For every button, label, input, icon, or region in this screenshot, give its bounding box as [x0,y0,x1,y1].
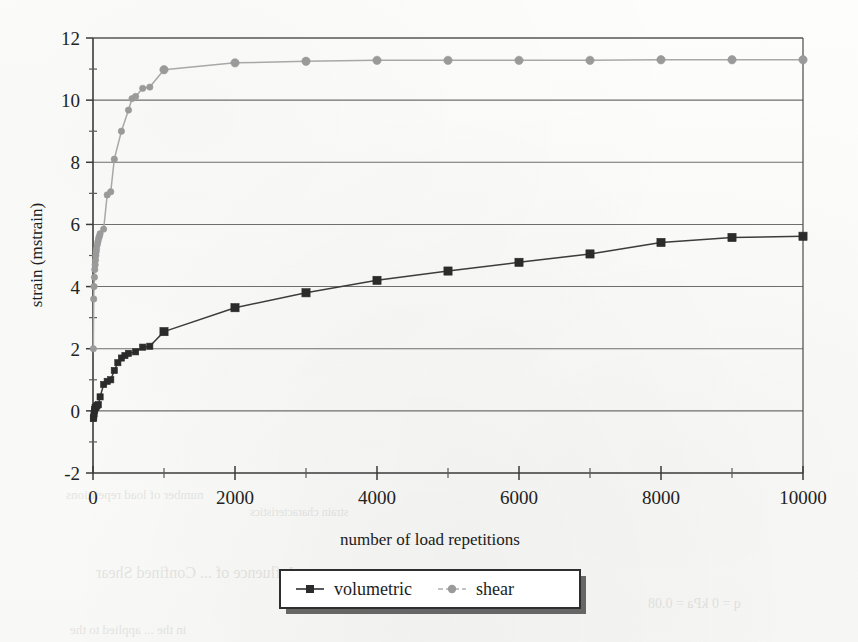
marker-volumetric [140,344,146,350]
y-axis-tick-labels: -2024681012 [61,28,81,484]
marker-volumetric [108,377,114,383]
legend-marker-shear [448,585,456,593]
gridlines [93,38,803,411]
legend-label-shear: shear [476,579,514,599]
marker-shear [91,274,97,280]
marker-shear [108,189,114,195]
x-axis-tick-labels: 0200040006000800010000 [88,487,827,508]
y-tick-label: 4 [71,277,81,298]
y-axis-title: strain (mstrain) [27,203,46,307]
legend-marker-volumetric [306,585,314,593]
marker-volumetric [302,289,310,297]
marker-volumetric [231,304,239,312]
x-tick-label: 6000 [500,487,538,508]
strain-vs-repetitions-chart: -2024681012 0200040006000800010000 numbe… [0,0,858,642]
marker-volumetric [133,349,139,355]
marker-volumetric [97,394,103,400]
marker-shear [515,56,523,64]
marker-shear [100,226,106,232]
marker-shear [799,56,807,64]
axis-spines [93,38,803,473]
y-tick-label: 0 [71,401,81,422]
series-volumetric [90,232,807,422]
marker-volumetric [160,328,168,336]
marker-shear [91,296,97,302]
series-line-shear [93,60,803,349]
marker-shear [160,65,168,73]
marker-shear [373,56,381,64]
y-tick-label: 2 [71,339,81,360]
chart-figure: -2024681012 0200040006000800010000 numbe… [0,0,858,642]
marker-volumetric [111,367,117,373]
marker-shear [91,283,97,289]
x-tick-label: 2000 [216,487,254,508]
marker-volumetric [728,233,736,241]
y-tick-label: 12 [61,28,80,49]
marker-shear [118,128,124,134]
marker-shear [728,56,736,64]
marker-volumetric [125,350,131,356]
marker-shear [90,346,96,352]
marker-volumetric [444,267,452,275]
y-tick-label: 6 [71,214,81,235]
legend-label-volumetric: volumetric [334,579,412,599]
marker-shear [231,59,239,67]
marker-volumetric [586,250,594,258]
y-tick-label: -2 [64,463,80,484]
marker-shear [125,107,131,113]
x-tick-label: 10000 [779,487,827,508]
x-axis-title: number of load repetitions [340,530,520,549]
marker-shear [444,56,452,64]
series-line-volumetric [93,236,803,418]
x-tick-label: 4000 [358,487,396,508]
marker-shear [111,156,117,162]
marker-volumetric [147,343,153,349]
marker-shear [140,85,146,91]
chart-legend: volumetricshear [280,570,586,614]
marker-volumetric [657,238,665,246]
marker-volumetric [515,258,523,266]
marker-shear [147,84,153,90]
x-tick-label: 0 [88,487,98,508]
marker-volumetric [373,276,381,284]
marker-shear [657,56,665,64]
marker-shear [586,56,594,64]
marker-shear [132,93,138,99]
x-tick-label: 8000 [642,487,680,508]
y-tick-label: 10 [61,90,80,111]
legend-box [280,570,580,608]
marker-volumetric [799,232,807,240]
marker-shear [302,57,310,65]
y-tick-label: 8 [71,152,81,173]
marker-volumetric [95,402,101,408]
